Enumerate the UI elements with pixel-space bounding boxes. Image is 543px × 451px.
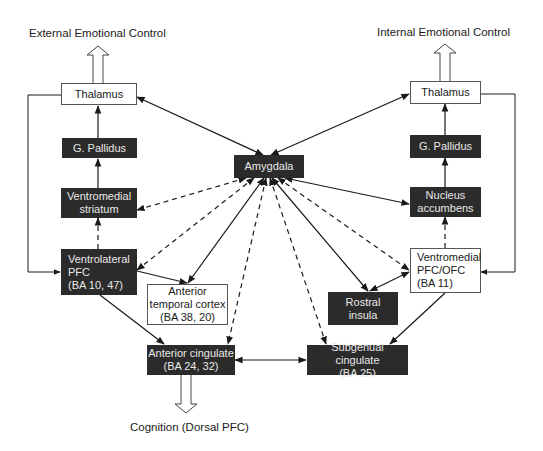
node-label: Thalamus <box>75 88 123 101</box>
node-anterior-cingulate: Anterior cingulate (BA 24, 32) <box>147 345 235 375</box>
node-nucleus-accumbens: Nucleus accumbens <box>410 187 481 217</box>
node-thalamus-left: Thalamus <box>61 83 137 105</box>
edge-amygdala-thalamus-left <box>137 97 263 155</box>
node-label: Subgenual cingulate (BA 25) <box>308 341 407 380</box>
edge-amygdala-vmstriatum <box>137 178 246 210</box>
node-label: Anterior temporal cortex (BA 38, 20) <box>150 285 226 324</box>
edge-amygdala-vlpfc <box>137 178 254 270</box>
node-label: G. Pallidus <box>419 140 472 153</box>
node-label: Amygdala <box>245 160 294 173</box>
node-ventrolateral-pfc: Ventrolateral PFC (BA 10, 47) <box>61 249 137 295</box>
output-arrow-external <box>87 46 109 83</box>
node-label: Nucleus accumbens <box>417 189 473 215</box>
node-label: Rostral insula <box>346 296 381 322</box>
limbic-circuit-diagram: External Emotional Control Internal Emot… <box>0 0 543 451</box>
edge-vmpfc-insula <box>370 272 409 291</box>
node-pallidus-left: G. Pallidus <box>62 138 137 158</box>
connections-layer <box>0 0 543 451</box>
node-label: Thalamus <box>421 86 469 99</box>
node-anterior-temporal-cortex: Anterior temporal cortex (BA 38, 20) <box>147 284 228 325</box>
edge-amygdala-anttemporal <box>188 178 264 283</box>
node-label: Ventromedial PFC/OFC (BA 11) <box>417 251 481 290</box>
node-thalamus-right: Thalamus <box>410 81 481 104</box>
edge-amygdala-antcingulate <box>228 178 266 344</box>
edge-amygdala-subgenual <box>270 178 326 344</box>
node-label: Ventromedial striatum <box>67 190 131 216</box>
label-internal-emotional-control: Internal Emotional Control <box>377 26 510 38</box>
node-amygdala: Amygdala <box>234 155 304 178</box>
edge-amygdala-vmpfc <box>278 178 409 270</box>
edge-vlpfc-anttemporal <box>137 271 187 283</box>
edge-amygdala-insula <box>272 178 368 291</box>
label-cognition: Cognition (Dorsal PFC) <box>130 421 249 433</box>
node-subgenual-cingulate: Subgenual cingulate (BA 25) <box>307 345 408 375</box>
label-external-emotional-control: External Emotional Control <box>29 27 166 39</box>
output-arrow-internal <box>434 44 456 81</box>
edge-amygdala-thalamus-right <box>271 94 409 155</box>
node-rostral-insula: Rostral insula <box>328 292 398 325</box>
output-arrow-cognition <box>175 374 197 413</box>
edge-vmpfc-subgenual <box>390 293 445 344</box>
node-ventromedial-pfc-ofc: Ventromedial PFC/OFC (BA 11) <box>410 248 481 293</box>
node-label: Anterior cingulate (BA 24, 32) <box>148 347 234 373</box>
edge-thalamus-vlpfc-loop <box>28 95 61 272</box>
node-pallidus-right: G. Pallidus <box>410 135 481 158</box>
edge-thalamus-vmpfc-loop <box>481 94 515 272</box>
node-label: G. Pallidus <box>73 142 126 155</box>
node-label: Ventrolateral PFC (BA 10, 47) <box>68 253 130 292</box>
node-ventromedial-striatum: Ventromedial striatum <box>61 188 137 218</box>
edge-amygdala-accumbens <box>285 178 409 204</box>
